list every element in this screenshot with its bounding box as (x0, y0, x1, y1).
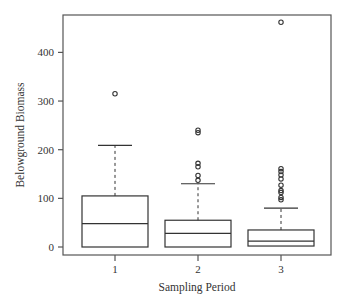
y-axis-label: Belowground Biomass (14, 82, 27, 188)
y-tick-label: 100 (38, 192, 55, 204)
outlier-point (113, 92, 117, 96)
y-tick-label: 200 (38, 144, 55, 156)
box-period-2 (165, 128, 231, 247)
outlier-point (196, 178, 200, 182)
y-tick-label: 300 (38, 95, 55, 107)
outlier-point (279, 183, 283, 187)
box-period-3 (248, 20, 314, 246)
y-axis: 0100200300400 (38, 46, 64, 253)
outlier-point (196, 173, 200, 177)
iqr-box (82, 196, 148, 247)
outlier-point (279, 166, 283, 170)
boxes (82, 20, 314, 247)
y-tick-label: 0 (49, 241, 55, 253)
x-tick-label: 2 (195, 263, 201, 275)
boxplot-chart: 0100200300400 123 Sampling Period Belowg… (0, 0, 351, 306)
x-tick-label: 3 (278, 263, 284, 275)
x-tick-label: 1 (112, 263, 118, 275)
x-axis-label: Sampling Period (159, 281, 236, 294)
outlier-point (279, 20, 283, 24)
x-axis: 123 (112, 255, 284, 275)
iqr-box (248, 230, 314, 246)
y-tick-label: 400 (38, 46, 55, 58)
box-period-1 (82, 92, 148, 247)
